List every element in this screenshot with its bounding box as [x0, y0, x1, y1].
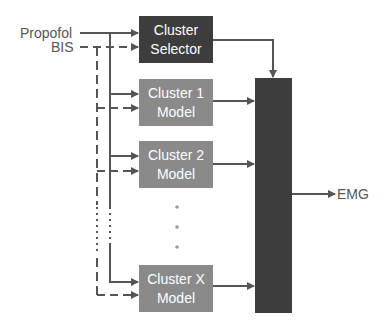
model-subtitle: Model — [148, 103, 204, 122]
cluster-selector-line2: Selector — [150, 40, 201, 59]
switch-block — [255, 78, 292, 313]
selector-to-switch-arrow — [213, 40, 273, 77]
model-title: Cluster 2 — [148, 146, 204, 165]
model-subtitle: Model — [148, 165, 204, 184]
cluster-1-model-box: Cluster 1 Model — [139, 79, 213, 126]
cluster-selector-line1: Cluster — [150, 21, 201, 40]
bis-label: BIS — [51, 39, 74, 55]
model-subtitle: Model — [147, 289, 205, 308]
model-title: Cluster 1 — [148, 84, 204, 103]
model-title: Cluster X — [147, 270, 205, 289]
cluster-x-model-box: Cluster X Model — [139, 265, 213, 312]
emg-output-label: EMG — [337, 186, 369, 202]
cluster-selector-box: Cluster Selector — [139, 16, 213, 63]
ellipsis-dots — [175, 205, 179, 249]
cluster-2-model-box: Cluster 2 Model — [139, 141, 213, 188]
